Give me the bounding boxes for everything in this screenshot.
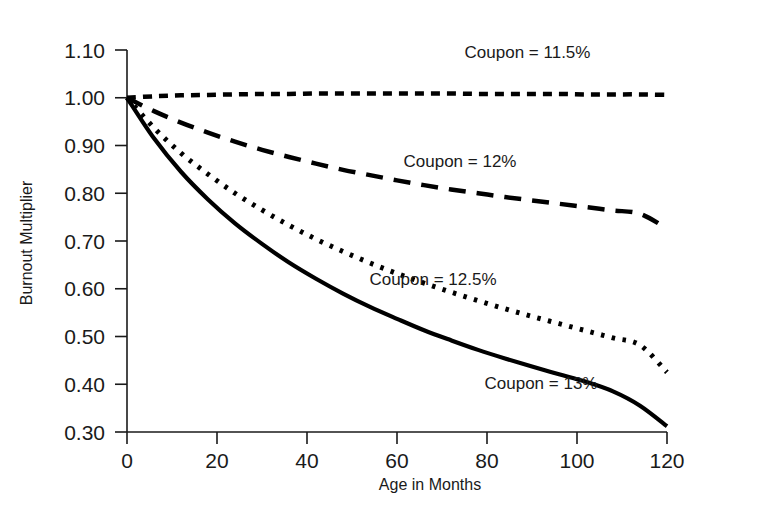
y-tick-label: 0.50 xyxy=(64,325,105,348)
series-curve-coupon-12-5 xyxy=(127,98,667,373)
y-tick-label: 0.40 xyxy=(64,373,105,396)
series-label-coupon-12: Coupon = 12% xyxy=(404,152,517,171)
y-tick-label: 0.90 xyxy=(64,134,105,157)
series-curve-coupon-11-5 xyxy=(127,93,667,97)
burnout-multiplier-line-chart: 0.300.400.500.600.700.800.901.001.10 020… xyxy=(0,0,759,513)
x-tick-label: 0 xyxy=(121,449,133,472)
x-axis-ticks xyxy=(127,432,667,444)
y-axis-ticks xyxy=(115,50,127,432)
x-tick-label: 80 xyxy=(475,449,498,472)
x-tick-label: 60 xyxy=(385,449,408,472)
y-tick-label: 0.70 xyxy=(64,230,105,253)
x-tick-label: 40 xyxy=(295,449,318,472)
x-axis-tick-labels: 020406080100120 xyxy=(121,449,684,472)
y-tick-label: 1.00 xyxy=(64,86,105,109)
x-tick-label: 120 xyxy=(649,449,684,472)
series-label-coupon-11-5: Coupon = 11.5% xyxy=(465,43,591,62)
y-tick-label: 0.30 xyxy=(64,421,105,444)
x-tick-label: 100 xyxy=(559,449,594,472)
y-axis-title: Burnout Multiplier xyxy=(18,180,35,305)
y-tick-label: 0.60 xyxy=(64,277,105,300)
chart-container: 0.300.400.500.600.700.800.901.001.10 020… xyxy=(0,0,759,513)
y-tick-label: 0.80 xyxy=(64,182,105,205)
series-curve-coupon-12 xyxy=(127,98,667,229)
y-axis-tick-labels: 0.300.400.500.600.700.800.901.001.10 xyxy=(64,39,105,444)
series-label-coupon-12-5: Coupon = 12.5% xyxy=(369,270,496,289)
y-tick-label: 1.10 xyxy=(64,39,105,62)
x-axis-title: Age in Months xyxy=(379,476,481,493)
x-tick-label: 20 xyxy=(205,449,228,472)
series-label-coupon-13: Coupon = 13% xyxy=(485,374,598,393)
